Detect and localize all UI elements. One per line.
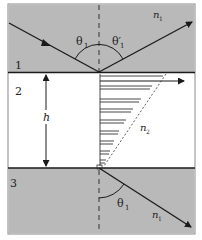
label-region-1: 1 [15, 59, 22, 72]
label-incident-angle-sub: 1 [84, 42, 88, 50]
label-region-3: 3 [10, 177, 17, 190]
label-index-top-sub: 1 [159, 15, 163, 22]
label-reflected-angle-sub: 1 [120, 42, 124, 50]
ftir-diagram: 1 2 3 h θ 1 θ′ 1 n 1 n 2 θ 1 n 1 [0, 0, 202, 240]
label-gap-height: h [43, 111, 50, 124]
label-region-2: 2 [15, 85, 22, 98]
label-index-bottom-sub: 1 [158, 215, 162, 222]
label-transmitted-angle-sub: 1 [125, 204, 129, 212]
label-incident-angle: θ [76, 35, 83, 48]
label-index-gap-sub: 2 [146, 128, 150, 135]
medium-3-region [9, 168, 195, 234]
label-transmitted-angle: θ [117, 197, 124, 210]
